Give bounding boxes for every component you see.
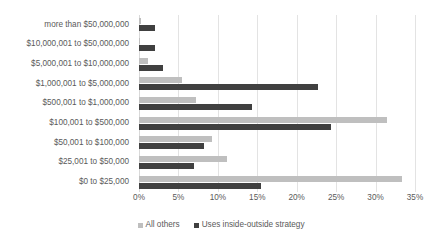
bar-chart: more than $50,000,000 $10,000,001 to $50…	[0, 0, 442, 246]
bar	[139, 104, 252, 110]
bar-group	[139, 74, 415, 94]
legend-item-all-others: All others	[138, 221, 180, 229]
x-axis-tick-label: 0%	[133, 194, 145, 202]
bar-group	[139, 113, 415, 133]
bar	[139, 156, 227, 162]
bar-group	[139, 35, 415, 55]
bar-group	[139, 54, 415, 74]
y-axis-category-labels: more than $50,000,000 $10,000,001 to $50…	[0, 15, 134, 192]
bar	[139, 65, 163, 71]
legend-swatch-icon	[194, 223, 199, 228]
bar	[139, 176, 402, 182]
legend-label: All others	[146, 221, 180, 229]
bar	[139, 124, 331, 130]
bars-layer	[139, 15, 415, 192]
y-axis-label: $50,001 to $100,000	[0, 133, 134, 153]
y-axis-label: $0 to $25,000	[0, 172, 134, 192]
x-axis-tick-label: 20%	[289, 194, 305, 202]
bar-group	[139, 172, 415, 192]
plot-area	[139, 15, 415, 192]
bar-group	[139, 153, 415, 173]
bar-group	[139, 94, 415, 114]
x-axis-tick-label: 25%	[328, 194, 344, 202]
bar-group	[139, 15, 415, 35]
x-axis-tick-label: 35%	[407, 194, 423, 202]
y-axis-label: more than $50,000,000	[0, 15, 134, 35]
y-axis-label: $10,000,001 to $50,000,000	[0, 35, 134, 55]
gridline	[415, 15, 416, 192]
bar	[139, 143, 204, 149]
y-axis-label: $5,000,001 to $10,000,000	[0, 54, 134, 74]
bar	[139, 38, 140, 44]
y-axis-label: $100,001 to $500,000	[0, 113, 134, 133]
bar	[139, 163, 194, 169]
bar	[139, 58, 148, 64]
chart-legend: All others Uses inside-outside strategy	[0, 221, 442, 229]
y-axis-label: $25,001 to $50,000	[0, 153, 134, 173]
x-axis-tick-label: 10%	[210, 194, 226, 202]
legend-swatch-icon	[138, 223, 143, 228]
y-axis-label: $500,001 to $1,000,000	[0, 94, 134, 114]
bar	[139, 183, 261, 189]
bar-group	[139, 133, 415, 153]
legend-label: Uses inside-outside strategy	[202, 221, 305, 229]
x-axis-tick-label: 15%	[249, 194, 265, 202]
legend-item-inside-outside-strategy: Uses inside-outside strategy	[194, 221, 305, 229]
bar	[139, 18, 141, 24]
bar	[139, 136, 212, 142]
y-axis-label: $1,000,001 to $5,000,000	[0, 74, 134, 94]
bar	[139, 45, 155, 51]
bar	[139, 117, 387, 123]
x-axis-tick-labels: 0%5%10%15%20%25%30%35%	[139, 194, 415, 208]
x-axis-tick-label: 30%	[367, 194, 383, 202]
bar	[139, 77, 182, 83]
bar	[139, 25, 155, 31]
x-axis-tick-label: 5%	[173, 194, 185, 202]
bar	[139, 97, 196, 103]
bar	[139, 84, 318, 90]
